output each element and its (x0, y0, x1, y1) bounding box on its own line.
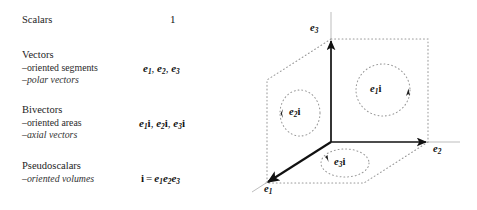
row-vectors-sublabel-2: –polar vectors (22, 74, 98, 86)
bivector-i-3: i (182, 117, 185, 129)
row-pseudoscalars: Pseudoscalars –oriented volumes (22, 160, 94, 185)
vector-e3: e3 (171, 62, 180, 74)
row-pseudoscalars-header: Pseudoscalars (22, 160, 94, 173)
bivector-e3: e3 (173, 117, 182, 129)
basis-diagram-svg (250, 0, 477, 210)
row-bivectors: Bivectors –oriented areas –axial vectors (22, 104, 82, 141)
row-bivectors-sublabel-2: –axial vectors (22, 129, 82, 141)
row-scalars-header: Scalars (22, 14, 52, 27)
loop-label-e1i: e1i (370, 83, 381, 96)
loop-label-e2i: e2i (289, 106, 300, 119)
bivector-e2: e2 (156, 117, 165, 129)
basis-diagram: e3 e2 e1 e1i e2i e3i (250, 0, 477, 210)
row-bivectors-sublabel-1: –oriented areas (22, 117, 82, 129)
loop-e3i-arrowhead (325, 155, 329, 162)
row-pseudoscalars-sublabel-1: –oriented volumes (22, 173, 94, 185)
row-bivectors-header: Bivectors (22, 104, 82, 117)
row-vectors-header: Vectors (22, 49, 98, 62)
row-vectors-sublabel-1: –oriented segments (22, 62, 98, 74)
row-pseudoscalars-math: i=e1e2e3 (141, 172, 180, 186)
axis-label-e1: e1 (264, 183, 272, 196)
figure-root: Scalars 1 Vectors –oriented segments –po… (0, 0, 477, 210)
row-scalars-math: 1 (170, 13, 176, 25)
loop-e1i-arrowhead (406, 89, 410, 97)
axis-extensions (252, 12, 460, 192)
loop-e2i-arrowhead (281, 109, 284, 118)
grade-classification-table: Scalars 1 Vectors –oriented segments –po… (0, 0, 250, 210)
bivector-e1: e1 (139, 117, 148, 129)
scalar-one: 1 (170, 13, 176, 25)
loop-label-e3i: e3i (334, 156, 345, 169)
row-scalars: Scalars (22, 14, 52, 27)
pseudoscalar-equals: = (144, 172, 154, 184)
row-vectors-math: e1, e2, e3 (143, 62, 180, 76)
row-vectors: Vectors –oriented segments –polar vector… (22, 49, 98, 86)
vector-e2: e2 (157, 62, 166, 74)
pseudoscalar-e3: e3 (171, 172, 180, 184)
axis-label-e2: e2 (433, 143, 441, 156)
axis-label-e3: e3 (310, 22, 318, 35)
vector-e1: e1 (143, 62, 152, 74)
plane-e3i (266, 142, 428, 183)
loop-e1i (356, 64, 410, 116)
row-bivectors-math: e1i, e2i, e3i (139, 117, 185, 131)
pseudoscalar-e1: e1 (154, 172, 163, 184)
